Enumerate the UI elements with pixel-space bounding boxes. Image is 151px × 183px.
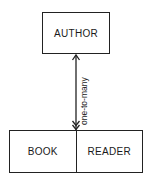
relationship-label: one-to-many (79, 77, 89, 125)
relationship-connector (0, 0, 151, 183)
